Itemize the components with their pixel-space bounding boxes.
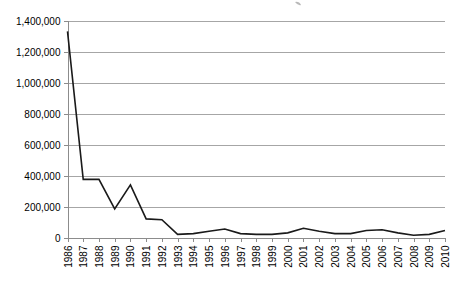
x-tick-label: 2007 <box>393 245 404 268</box>
x-tick-label: 1988 <box>94 245 105 268</box>
x-tick-label: 2002 <box>314 245 325 268</box>
x-tick-label: 2004 <box>346 245 357 268</box>
y-tick-label: 200,000 <box>24 202 61 213</box>
x-tick-label: 1995 <box>204 245 215 268</box>
x-tick-label: 2003 <box>330 245 341 268</box>
x-tick-label: 1987 <box>78 245 89 268</box>
y-tick-label: 0 <box>55 233 61 244</box>
y-tick-label: 600,000 <box>24 140 61 151</box>
line-chart: 0200,000400,000600,000800,0001,000,0001,… <box>0 0 451 282</box>
x-tick-label: 2001 <box>298 245 309 268</box>
x-tick-label: 1986 <box>63 245 74 268</box>
x-tick-label: 1994 <box>188 245 199 268</box>
y-tick-label: 1,200,000 <box>16 47 61 58</box>
x-tick-label: 1998 <box>251 245 262 268</box>
x-tick-label: 2000 <box>283 245 294 268</box>
y-tick-label: 1,000,000 <box>16 78 61 89</box>
chart-canvas: 0200,000400,000600,000800,0001,000,0001,… <box>0 0 451 282</box>
x-tick-label: 2006 <box>377 245 388 268</box>
x-tick-label: 2008 <box>409 245 420 268</box>
x-tick-label: 1996 <box>220 245 231 268</box>
y-tick-label: 400,000 <box>24 171 61 182</box>
x-tick-label: 2005 <box>361 245 372 268</box>
y-tick-label: 1,400,000 <box>16 16 61 27</box>
x-tick-label: 1990 <box>125 245 136 268</box>
x-tick-label: 1991 <box>141 245 152 268</box>
y-tick-label: 800,000 <box>24 109 61 120</box>
x-tick-label: 1999 <box>267 245 278 268</box>
x-tick-label: 1992 <box>157 245 168 268</box>
x-tick-label: 2009 <box>424 245 435 268</box>
x-tick-label: 1989 <box>110 245 121 268</box>
x-tick-label: 1993 <box>173 245 184 268</box>
x-tick-label: 1997 <box>236 245 247 268</box>
x-tick-label: 2010 <box>440 245 451 268</box>
